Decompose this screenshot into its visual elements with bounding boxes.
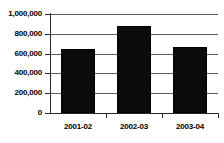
x-axis-labels: 2001-02 2002-03 2003-04 [50,122,218,136]
y-axis-tick-label: 400,000 [14,69,42,77]
y-axis-tick-label: 600,000 [14,50,42,58]
x-axis-line [46,113,218,114]
gridline [50,14,218,15]
x-axis-tick-mark [106,113,107,118]
plot-area [50,14,218,113]
y-axis-tick-label: 200,000 [14,89,42,97]
x-axis-tick-label: 2003-04 [162,122,218,131]
y-axis-tick-label: 800,000 [14,30,42,38]
bar [173,47,207,113]
x-axis-tick-mark [162,113,163,118]
x-axis-tick-mark [218,113,219,118]
y-axis-tick-label: 0 [38,109,42,117]
bar [117,26,151,113]
bar [61,49,95,113]
y-axis-tick-label: 1,000,000 [8,10,42,18]
x-axis-tick-label: 2002-03 [106,122,162,131]
y-axis-line [50,13,51,114]
x-axis-tick-label: 2001-02 [50,122,106,131]
y-axis-labels: 1,000,000 800,000 600,000 400,000 200,00… [0,0,45,143]
bar-chart: 1,000,000 800,000 600,000 400,000 200,00… [0,0,224,143]
